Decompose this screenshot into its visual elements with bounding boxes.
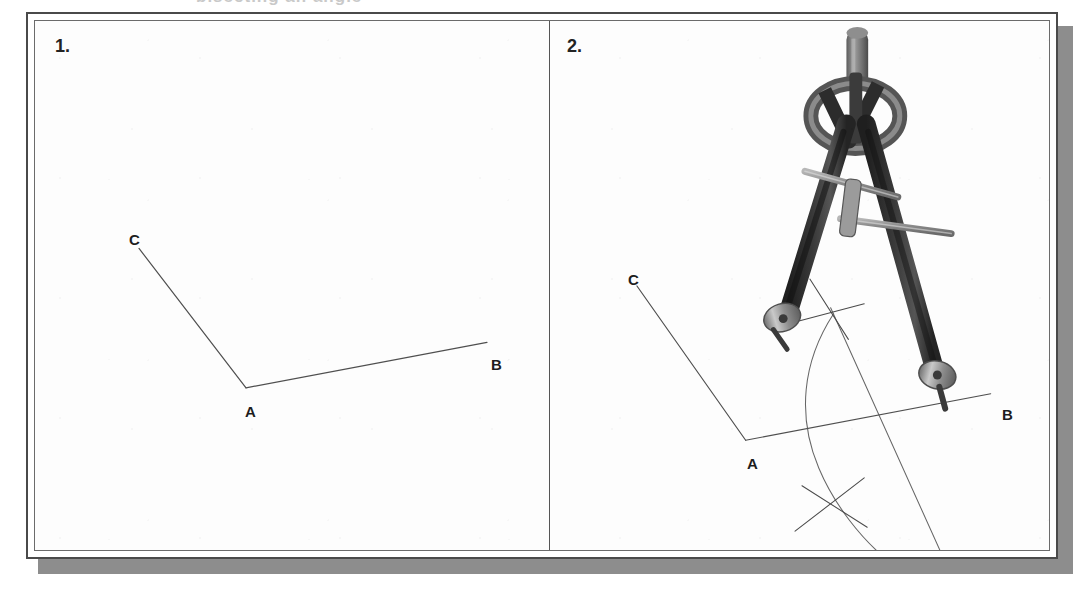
label-a-panel-2: A [747,455,758,472]
label-c-panel-1: C [129,231,140,248]
page-inner-rule: 1. C A B 2. [34,20,1050,551]
panel-1: 1. C A B [35,21,549,550]
panel-2: 2. [550,21,1049,550]
figure-root: bisecting an angle 1. C A B [0,0,1092,601]
label-c-panel-2: C [628,271,639,288]
cropped-caption-sliver: bisecting an angle [0,0,1092,11]
ray-ac-panel-2 [637,286,746,440]
ray-ab-panel-1 [246,342,487,387]
cropped-caption-text: bisecting an angle [196,0,362,7]
label-b-panel-2: B [1002,406,1013,423]
ray-ab-panel-2 [746,394,991,440]
panel-1-drawing [35,21,549,550]
panel-2-drawing [550,21,1049,550]
worksheet-page: 1. C A B 2. [26,12,1058,559]
construction-arc-panel-2 [805,314,885,550]
ray-ac-panel-1 [139,248,246,387]
compass-right-leg [866,124,959,409]
label-a-panel-1: A [245,403,256,420]
compass-hinge-yoke [811,72,900,148]
label-b-panel-1: B [491,356,502,373]
compass-illustration [760,27,959,409]
